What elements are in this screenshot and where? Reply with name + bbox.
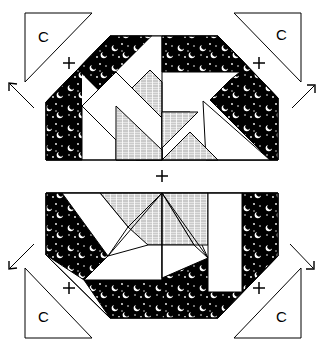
arrow-bottom-left-icon [9,244,34,269]
triangle-label: C [276,308,287,325]
arrow-top-right-icon [292,85,315,108]
arrow-top-left-icon [9,83,34,108]
plus-icon-top-left [63,57,75,69]
plus-icon-top-right [253,57,265,69]
quilt-assembly-diagram: C C C C [0,0,320,343]
top-half-block [46,36,278,160]
arrow-bottom-right-icon [290,244,314,269]
plus-icon-bottom-right [253,282,265,294]
triangle-label: C [38,308,49,325]
plus-icon-bottom-left [63,282,75,294]
triangle-label: C [38,28,49,45]
triangle-label: C [276,26,287,43]
plus-icon-center [156,170,168,182]
bottom-half-block [46,193,278,318]
